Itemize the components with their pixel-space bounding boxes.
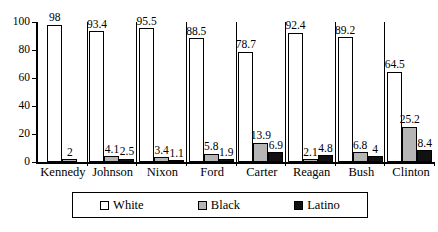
bars: 92.42.14.8 (286, 22, 335, 162)
y-axis-tick-mark (32, 78, 36, 79)
bar-value-label: 2.5 (120, 146, 134, 158)
bar-white[interactable]: 89.2 (338, 37, 353, 162)
bar-black[interactable]: 2 (62, 159, 77, 162)
bar-value-label: 98 (49, 12, 61, 24)
legend-item-latino[interactable]: Latino (294, 199, 340, 212)
bar-latino[interactable]: 1.1 (169, 160, 184, 162)
bar-latino[interactable]: 4.8 (318, 155, 333, 162)
bar-group: 89.26.84 (336, 22, 386, 162)
bar-value-label: 4 (372, 144, 378, 156)
bar-white[interactable]: 88.5 (189, 38, 204, 162)
y-axis-tick-label: 100 (13, 16, 30, 28)
bar-group: 982 (38, 22, 88, 162)
bar-value-label: 93.4 (87, 19, 107, 31)
bars: 982 (38, 22, 87, 162)
bar-white[interactable]: 95.5 (139, 28, 154, 162)
bar-value-label: 6.9 (269, 140, 283, 152)
x-axis-category-label: Johnson (88, 166, 138, 180)
y-axis-tick-label: 60 (19, 72, 31, 84)
bar-value-label: 78.7 (236, 39, 256, 51)
gray-swatch-icon (198, 201, 207, 210)
x-axis-category-labels: KennedyJohnsonNixonFordCarterReaganBushC… (38, 166, 436, 180)
y-axis-tick-label: 40 (19, 100, 31, 112)
bar-value-label: 89.2 (335, 25, 355, 37)
bar-white[interactable]: 92.4 (288, 33, 303, 162)
bar-black[interactable]: 4.1 (104, 156, 119, 162)
bar-white[interactable]: 93.4 (89, 31, 104, 162)
bar-value-label: 1.1 (169, 148, 183, 160)
bar-black[interactable]: 5.8 (204, 154, 219, 162)
x-axis-category-label: Kennedy (38, 166, 88, 180)
y-axis-tick-mark (32, 106, 36, 107)
bar-value-label: 6.8 (353, 140, 367, 152)
bar-white[interactable]: 78.7 (238, 52, 253, 162)
y-axis-tick-label: 0 (24, 156, 30, 168)
bars: 88.55.81.9 (187, 22, 236, 162)
bars: 78.713.96.9 (237, 22, 286, 162)
bar-group: 92.42.14.8 (286, 22, 336, 162)
bar-latino[interactable]: 8.4 (417, 150, 432, 162)
bar-latino[interactable]: 1.9 (219, 159, 234, 162)
legend-item-label: Black (211, 199, 240, 212)
y-axis-tick-mark (32, 50, 36, 51)
y-axis-tick-label: 20 (19, 128, 31, 140)
x-axis-category-label: Carter (237, 166, 287, 180)
bar-black[interactable]: 25.2 (402, 127, 417, 162)
x-axis-category-label: Nixon (138, 166, 188, 180)
bar-value-label: 5.8 (204, 141, 218, 153)
bar-value-label: 88.5 (186, 26, 206, 38)
bar-black[interactable]: 13.9 (253, 143, 268, 162)
bar-latino[interactable]: 6.9 (268, 152, 283, 162)
bar-latino[interactable]: 2.5 (119, 159, 134, 163)
bar-black[interactable]: 2.1 (303, 159, 318, 162)
bar-value-label: 3.4 (154, 145, 168, 157)
bar-latino[interactable]: 4 (368, 156, 383, 162)
plot-area: 020406080100 98293.44.12.595.53.41.188.5… (36, 22, 434, 162)
bar-group: 78.713.96.9 (237, 22, 287, 162)
bar-groups: 98293.44.12.595.53.41.188.55.81.978.713.… (38, 22, 434, 162)
white-swatch-icon (100, 201, 109, 210)
bar-group: 64.525.28.4 (385, 22, 434, 162)
bar-value-label: 2.1 (303, 147, 317, 159)
x-axis-category-label: Clinton (386, 166, 436, 180)
bar-value-label: 4.1 (105, 144, 119, 156)
bar-group: 95.53.41.1 (137, 22, 187, 162)
bars: 64.525.28.4 (385, 22, 434, 162)
legend-item-label: White (113, 199, 144, 212)
y-axis-tick-label: 80 (19, 44, 31, 56)
bar-value-label: 2 (67, 147, 73, 159)
bar-value-label: 8.4 (418, 138, 432, 150)
black-swatch-icon (294, 201, 303, 210)
bars: 93.44.12.5 (88, 22, 137, 162)
y-axis-tick-mark (32, 162, 36, 163)
legend-item-white[interactable]: White (100, 199, 144, 212)
y-axis-tick-mark (32, 22, 36, 23)
chart-legend: WhiteBlackLatino (72, 192, 368, 218)
bar-value-label: 95.5 (137, 16, 157, 28)
bars: 89.26.84 (336, 22, 385, 162)
bar-black[interactable]: 3.4 (154, 157, 169, 162)
bar-value-label: 1.9 (219, 147, 233, 159)
cropped-header-text: ·· (0, 0, 7, 3)
bar-value-label: 25.2 (400, 114, 420, 126)
bar-white[interactable]: 98 (47, 25, 62, 162)
cropped-header-artifact: ·· (0, 0, 438, 5)
bar-group: 93.44.12.5 (88, 22, 138, 162)
bar-group: 88.55.81.9 (187, 22, 237, 162)
legend-item-black[interactable]: Black (198, 199, 240, 212)
bar-value-label: 92.4 (285, 20, 305, 32)
bar-black[interactable]: 6.8 (353, 152, 368, 162)
legend-item-label: Latino (307, 199, 340, 212)
bars: 95.53.41.1 (137, 22, 186, 162)
x-axis-category-label: Ford (187, 166, 237, 180)
x-axis-category-label: Bush (337, 166, 387, 180)
bar-chart: ·· 020406080100 98293.44.12.595.53.41.18… (0, 0, 438, 232)
bar-value-label: 64.5 (385, 59, 405, 71)
bar-value-label: 4.8 (318, 143, 332, 155)
x-axis-category-label: Reagan (287, 166, 337, 180)
y-axis-tick-mark (32, 134, 36, 135)
